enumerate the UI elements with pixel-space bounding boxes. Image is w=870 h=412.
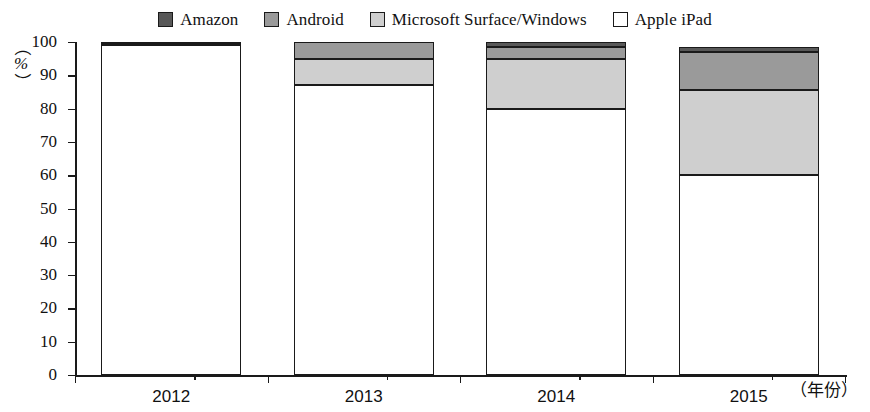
- bar-segment: [486, 42, 626, 47]
- x-axis-minor-tick-mark: [387, 375, 388, 380]
- bar-group: [294, 42, 434, 375]
- legend-item-label: Microsoft Surface/Windows: [392, 10, 587, 29]
- bar-group: [486, 42, 626, 375]
- y-axis-tick-mark: [68, 42, 75, 43]
- y-axis-tick-mark: [68, 142, 75, 143]
- y-axis-tick-mark: [68, 242, 75, 243]
- y-axis-tick-mark: [68, 342, 75, 343]
- x-axis-tick-mark: [75, 375, 76, 383]
- bar-group: [101, 42, 241, 375]
- x-axis-unit-label: （年份）: [790, 381, 858, 401]
- y-axis-line: [75, 42, 77, 375]
- y-axis-tick-mark: [68, 109, 75, 110]
- y-axis-tick-label: 90: [23, 65, 57, 84]
- x-axis-minor-tick-mark: [194, 375, 195, 380]
- y-axis-tick-label: 30: [23, 265, 57, 284]
- plot-area: 0102030405060708090100 2012201320142015: [75, 42, 845, 375]
- x-axis-tick-label: 2015: [730, 387, 768, 407]
- bar-segment: [679, 175, 819, 375]
- bar-segment: [294, 59, 434, 86]
- y-axis-tick-mark: [68, 209, 75, 210]
- y-axis-tick-mark: [68, 308, 75, 309]
- y-axis-tick-mark: [68, 275, 75, 276]
- y-axis-tick-label: 20: [23, 298, 57, 317]
- y-axis-tick-label: 40: [23, 232, 57, 251]
- x-axis-tick-label: 2013: [345, 387, 383, 407]
- x-axis-minor-tick-mark: [772, 375, 773, 380]
- legend-item-label: Apple iPad: [635, 10, 712, 29]
- x-axis-tick-mark: [268, 375, 269, 383]
- bar-segment: [486, 59, 626, 109]
- bar-group: [679, 42, 819, 375]
- y-axis-tick-label: 50: [23, 199, 57, 218]
- x-axis-tick-label: 2012: [152, 387, 190, 407]
- stacked-bar-chart: AmazonAndroidMicrosoft Surface/WindowsAp…: [0, 0, 870, 412]
- y-axis-tick-label: 100: [23, 32, 57, 51]
- y-axis-tick-label: 80: [23, 99, 57, 118]
- y-axis-tick-mark: [68, 375, 75, 376]
- chart-legend: AmazonAndroidMicrosoft Surface/WindowsAp…: [0, 6, 870, 32]
- bar-segment: [679, 52, 819, 90]
- bar-segment: [294, 42, 434, 59]
- legend-item-label: Amazon: [180, 10, 238, 29]
- x-axis-tick-mark: [653, 375, 654, 383]
- legend-item: Amazon: [158, 10, 238, 29]
- bar-segment: [101, 42, 241, 44]
- legend-swatch-icon: [370, 12, 385, 27]
- bar-segment: [679, 90, 819, 175]
- bar-segment: [486, 47, 626, 59]
- x-axis-tick-mark: [845, 375, 846, 383]
- y-axis-tick-label: 70: [23, 132, 57, 151]
- legend-swatch-icon: [613, 12, 628, 27]
- bar-segment: [101, 45, 241, 375]
- y-axis-tick-mark: [68, 75, 75, 76]
- x-axis-tick-label: 2014: [537, 387, 575, 407]
- x-axis-minor-tick-mark: [579, 375, 580, 380]
- y-axis-tick-label: 0: [23, 365, 57, 384]
- legend-item: Apple iPad: [613, 10, 712, 29]
- x-axis-tick-mark: [460, 375, 461, 383]
- y-axis-tick-label: 10: [23, 332, 57, 351]
- y-axis-tick-label: 60: [23, 165, 57, 184]
- bar-segment: [486, 109, 626, 375]
- legend-item: Android: [264, 10, 343, 29]
- bar-segment: [679, 47, 819, 52]
- bar-segment: [294, 85, 434, 375]
- legend-item-label: Android: [286, 10, 343, 29]
- legend-swatch-icon: [264, 12, 279, 27]
- legend-item: Microsoft Surface/Windows: [370, 10, 587, 29]
- legend-swatch-icon: [158, 12, 173, 27]
- y-axis-tick-mark: [68, 175, 75, 176]
